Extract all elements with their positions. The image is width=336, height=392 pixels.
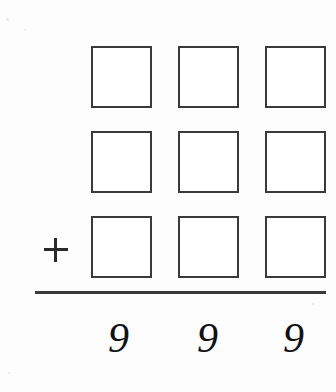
answer-box-r2c2[interactable]	[265, 216, 326, 278]
scan-speckle	[312, 303, 314, 305]
answer-box-r1c2[interactable]	[265, 131, 326, 193]
sum-digit-ones: 9	[263, 310, 324, 366]
plus-vertical-stroke	[54, 238, 57, 262]
addition-worksheet: 9 9 9	[0, 0, 336, 392]
answer-box-r0c2[interactable]	[265, 46, 326, 108]
sum-digit-tens: 9	[177, 310, 238, 366]
plus-operator-icon	[40, 234, 72, 266]
sum-rule-line	[35, 291, 326, 294]
scan-speckle	[6, 18, 9, 21]
sum-digit-hundreds: 9	[88, 310, 149, 366]
answer-box-r2c0[interactable]	[91, 216, 152, 278]
scan-speckle	[8, 372, 10, 374]
answer-box-r1c1[interactable]	[178, 131, 239, 193]
answer-box-r0c1[interactable]	[178, 46, 239, 108]
scan-speckle	[24, 29, 26, 31]
answer-box-r2c1[interactable]	[178, 216, 239, 278]
answer-box-r0c0[interactable]	[91, 46, 152, 108]
answer-box-r1c0[interactable]	[91, 131, 152, 193]
